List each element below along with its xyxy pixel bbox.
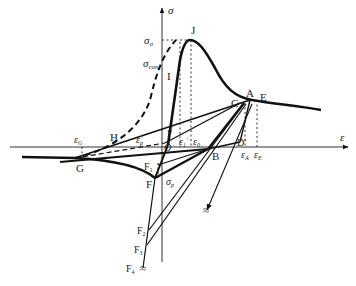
sigma-p-label: σp xyxy=(166,176,174,188)
eps-1-prime-label: ε1' xyxy=(179,136,188,148)
x-axis-label: ε xyxy=(340,131,345,143)
eps-0-label: ε0 xyxy=(193,136,200,148)
eps-G-label: εG xyxy=(74,134,83,146)
point-F3-label: F3 xyxy=(134,244,143,256)
sigma-o-label: σo xyxy=(144,34,153,48)
point-H-label: H xyxy=(110,131,118,143)
point-F4-label: F4 xyxy=(126,263,135,275)
point-F-label: F xyxy=(146,178,152,190)
point-E-label: E xyxy=(260,91,267,103)
break-symbol-F4: ≈ xyxy=(140,262,146,274)
break-symbol-arrow: ≈ xyxy=(203,204,209,216)
point-F1-label: F1 xyxy=(144,161,153,173)
point-J-label: J xyxy=(191,24,196,36)
point-D-prime-label: D' xyxy=(237,137,246,148)
y-axis-label: σ xyxy=(168,4,174,16)
point-A-label: A xyxy=(246,87,254,99)
eps-A-label: εA xyxy=(241,149,249,161)
point-I-prime-label: I' xyxy=(167,128,172,139)
sigma-con-label: σcon xyxy=(143,57,159,71)
point-I-label: I xyxy=(167,70,171,82)
point-O-label: O xyxy=(164,142,171,153)
stress-strain-diagram: σ ε σo σcon σp J I I' O A C E D' B H G F… xyxy=(0,0,356,286)
dashed-envelope-curve xyxy=(75,40,176,158)
point-G-label: G xyxy=(76,162,84,174)
loading-paths xyxy=(60,100,252,268)
point-F2-label: F2 xyxy=(137,225,146,237)
eps-E-label: εE xyxy=(254,149,262,161)
point-B-label: B xyxy=(212,150,219,162)
point-C-label: C xyxy=(231,97,238,109)
